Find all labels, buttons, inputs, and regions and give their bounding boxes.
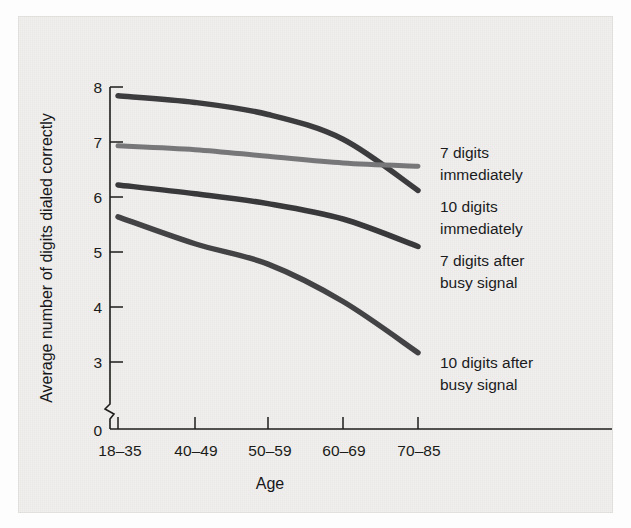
- x-axis-title: Age: [256, 475, 285, 492]
- legend-entry-3-line2: busy signal: [440, 376, 518, 393]
- x-tick-label-4: 70–85: [397, 442, 441, 459]
- y-axis-title: Average number of digits dialed correctl…: [38, 113, 55, 403]
- y-tick-labels: 8 7 6 5 4 3 0: [93, 79, 102, 439]
- y-axis-break-icon: [105, 362, 114, 429]
- legend-entry-0-line2: immediately: [440, 166, 523, 183]
- legend-entry-3-line1: 10 digits after: [440, 354, 533, 371]
- y-tick-label-0: 0: [93, 422, 102, 439]
- legend-entry-1-line2: immediately: [440, 220, 523, 237]
- legend: 7 digits immediately 10 digits immediate…: [440, 144, 533, 393]
- y-tick-label-4: 4: [93, 299, 102, 316]
- y-tick-marks: [110, 87, 123, 362]
- series-line-3: [118, 217, 418, 353]
- x-tick-label-0: 18–35: [98, 442, 142, 459]
- x-tick-label-1: 40–49: [174, 442, 218, 459]
- y-tick-label-5: 5: [93, 244, 102, 261]
- y-tick-label-7: 7: [93, 134, 102, 151]
- line-chart: 8 7 6 5 4 3 0 18–35 40–49 50–59 60–69 70…: [0, 0, 631, 528]
- legend-entry-2-line2: busy signal: [440, 274, 518, 291]
- series-line-2: [118, 185, 418, 247]
- x-tick-label-3: 60–69: [322, 442, 366, 459]
- y-tick-label-6: 6: [93, 189, 102, 206]
- x-tick-labels: 18–35 40–49 50–59 60–69 70–85: [98, 442, 441, 459]
- y-tick-label-3: 3: [93, 354, 102, 371]
- legend-entry-2-line1: 7 digits after: [440, 252, 524, 269]
- figure-page: 8 7 6 5 4 3 0 18–35 40–49 50–59 60–69 70…: [0, 0, 631, 528]
- y-axis: [105, 87, 114, 429]
- y-tick-label-8: 8: [93, 79, 102, 96]
- x-tick-marks: [118, 417, 418, 429]
- legend-entry-0-line1: 7 digits: [440, 144, 489, 161]
- x-tick-label-2: 50–59: [248, 442, 292, 459]
- series-layer: [118, 96, 418, 353]
- series-line-0: [118, 96, 418, 191]
- legend-entry-1-line1: 10 digits: [440, 198, 498, 215]
